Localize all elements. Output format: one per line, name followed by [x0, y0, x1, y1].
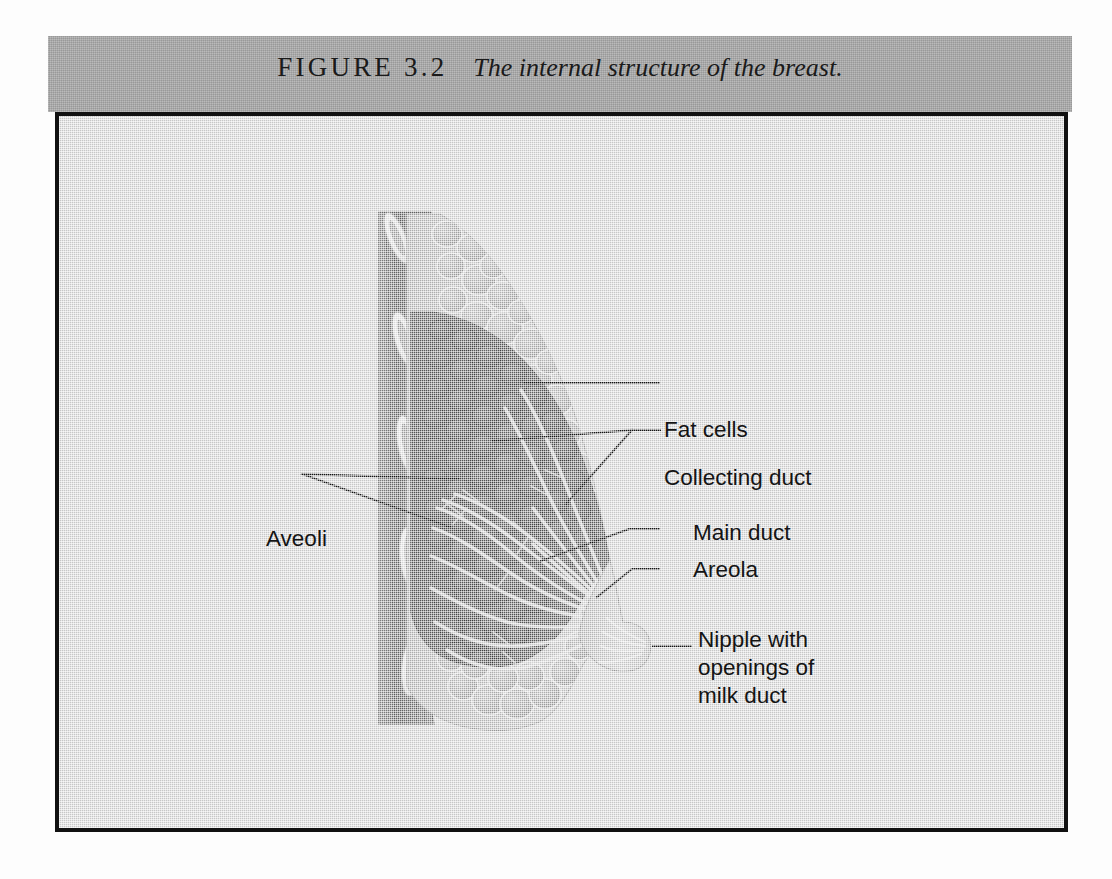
figure-title: The internal structure of the breast.	[473, 53, 842, 82]
figure-label: FIGURE 3.2	[277, 52, 447, 82]
label-main-duct: Main duct	[693, 519, 791, 547]
label-fat-cells: Fat cells	[664, 416, 748, 444]
label-nipple: Nipple with openings of milk duct	[698, 626, 814, 710]
label-aveoli: Aveoli	[266, 525, 327, 553]
illustration-panel: Fat cells Collecting duct Main duct Areo…	[55, 112, 1068, 832]
breast-envelope-group	[407, 209, 651, 731]
breast-cross-section-illustration	[59, 116, 1064, 828]
label-areola: Areola	[693, 556, 758, 584]
figure-root: FIGURE 3.2The internal structure of the …	[0, 0, 1112, 879]
figure-caption: FIGURE 3.2The internal structure of the …	[48, 52, 1072, 83]
label-collecting-duct: Collecting duct	[664, 464, 812, 492]
